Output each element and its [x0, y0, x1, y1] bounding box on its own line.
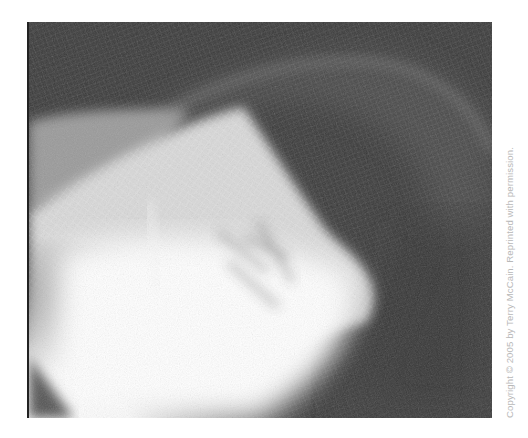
- copyright-caption: Copyright © 2005 by Terry McCain. Reprin…: [502, 156, 518, 418]
- photograph: [27, 22, 492, 418]
- mesh-dome-illustration: [29, 22, 492, 418]
